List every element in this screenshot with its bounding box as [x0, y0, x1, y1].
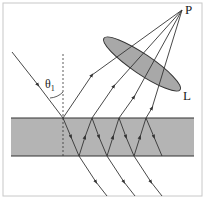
lens-label: L: [183, 89, 191, 102]
film-layer: [11, 118, 194, 156]
rays: [12, 10, 182, 196]
point-p-label: P: [185, 3, 192, 16]
thin-film-diagram: P L θ1: [0, 0, 205, 199]
frame: [3, 3, 202, 196]
angle-label: θ1: [45, 78, 55, 93]
theta-subscript: 1: [51, 84, 55, 93]
diagram-canvas: [0, 0, 205, 199]
